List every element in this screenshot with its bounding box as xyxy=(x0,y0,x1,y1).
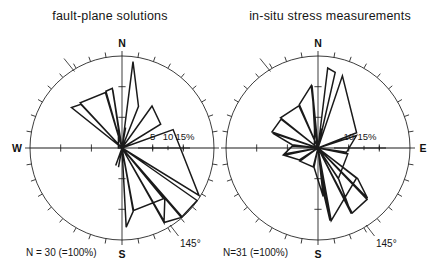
compass-label-north-left: N xyxy=(118,37,126,49)
scale-label-right-10: 10 xyxy=(343,131,354,142)
rose-diagram-figure: fault-plane solutions xyxy=(0,0,441,271)
rose-scale-bar-right xyxy=(334,146,386,150)
rose-chart-left: 5 10 15% N S W 145° N = 30 (=100%) xyxy=(0,0,220,271)
rose-petals-right xyxy=(272,68,368,221)
scale-label-right-15: 15% xyxy=(357,131,377,142)
angle-leader-left-se xyxy=(170,225,179,236)
angle-leader-right-nw xyxy=(260,59,271,72)
angle-leader-right-se xyxy=(366,225,375,236)
rose-scale-bar-left xyxy=(138,146,190,150)
angle-label-right: 145° xyxy=(376,238,397,249)
compass-label-east-right: E xyxy=(419,142,426,154)
panel-fault-plane-solutions: fault-plane solutions xyxy=(0,0,220,271)
compass-label-west-left: W xyxy=(12,142,22,154)
compass-label-south-left: S xyxy=(118,248,125,260)
panel-in-situ-stress-measurements: in-situ stress measurements xyxy=(220,0,440,271)
angle-leader-left-nw xyxy=(64,59,75,72)
compass-label-south-right: S xyxy=(314,248,321,260)
compass-label-north-right: N xyxy=(314,37,322,49)
rose-chart-right: 10 15% N S E 145° N=31 (=100%) xyxy=(220,0,441,271)
scale-label-left-15: 15% xyxy=(175,131,195,142)
sample-size-label-right: N=31 (=100%) xyxy=(223,247,288,258)
scale-label-left-5: 5 xyxy=(150,131,155,142)
angle-label-left: 145° xyxy=(180,238,201,249)
sample-size-label-left: N = 30 (=100%) xyxy=(26,247,97,258)
rose-petals-left xyxy=(72,62,200,228)
scale-label-left-10: 10 xyxy=(163,131,174,142)
